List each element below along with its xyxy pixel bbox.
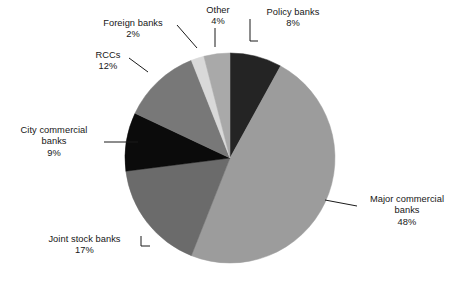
pie-label-other: Other 4% [194,5,242,28]
pie-label-city-commercial-banks-name-line2: banks [4,136,104,147]
leader-line-major-commercial-banks [325,200,357,206]
pie-label-policy-banks: Policy banks 8% [252,7,334,30]
leader-line-rccs [129,58,148,72]
pie-label-foreign-banks-name: Foreign banks [103,18,163,28]
pie-label-rccs-name: RCCs [96,50,121,60]
pie-label-policy-banks-percent: 8% [252,18,334,29]
leader-line-foreign-banks [177,25,197,48]
pie-label-foreign-banks: Foreign banks 2% [89,18,177,41]
pie-label-city-commercial-banks-name-line1: City commercial [21,125,88,135]
pie-label-major-commercial-banks-name-line1: Major commercial [370,194,444,204]
pie-label-major-commercial-banks-percent: 48% [358,217,456,228]
pie-label-foreign-banks-percent: 2% [89,29,177,40]
pie-label-rccs-percent: 12% [85,61,131,72]
pie-label-city-commercial-banks-percent: 9% [4,148,104,159]
pie-label-rccs: RCCs 12% [85,50,131,73]
pie-label-policy-banks-name: Policy banks [267,7,320,17]
pie-label-major-commercial-banks: Major commercial banks 48% [358,194,456,228]
pie-chart: Other 4% Policy banks 8% Foreign banks 2… [0,0,459,294]
pie-label-joint-stock-banks: Joint stock banks 17% [32,234,137,257]
pie-label-other-percent: 4% [194,16,242,27]
pie-label-city-commercial-banks: City commercial banks 9% [4,125,104,159]
pie-label-joint-stock-banks-name: Joint stock banks [48,234,120,244]
pie-slices [125,53,335,263]
leader-line-joint-stock-banks [141,236,150,246]
pie-label-other-name: Other [206,5,230,15]
pie-label-major-commercial-banks-name-line2: banks [358,205,456,216]
pie-label-joint-stock-banks-percent: 17% [32,245,137,256]
